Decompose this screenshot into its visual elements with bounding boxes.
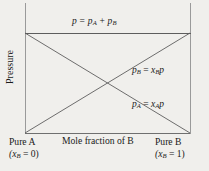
total-plus: +: [97, 16, 108, 26]
pure-b-tail: = 1): [167, 148, 185, 159]
annotation-partial-pressure-b: pB = xBp: [132, 66, 164, 76]
pb-rhs-tail: p: [159, 65, 164, 75]
pb-eq: =: [141, 65, 151, 75]
pure-b-composition: (xB = 1): [155, 148, 185, 162]
y-axis-label: Pressure: [5, 36, 15, 98]
pa-rhs-tail: p: [159, 99, 164, 109]
figure-canvas: p = pA + pB pB = xBp pA = xAp Pressure M…: [0, 0, 209, 171]
pure-a-composition: (xB = 0): [9, 148, 39, 162]
total-eq: =: [77, 16, 88, 26]
pa-eq: =: [141, 99, 151, 109]
x-axis-label: Mole fraction of B: [62, 136, 134, 146]
total-sub2: B: [113, 19, 117, 26]
pure-a-label: Pure A: [9, 136, 39, 148]
annotation-partial-pressure-a: pA = xAp: [132, 100, 164, 110]
annotation-total-pressure: p = pA + pB: [72, 17, 117, 27]
x-axis-right-endpoint-label: Pure B (xB = 1): [155, 136, 185, 161]
pure-b-label: Pure B: [155, 136, 185, 148]
pure-a-tail: = 0): [21, 148, 39, 159]
x-axis-left-endpoint-label: Pure A (xB = 0): [9, 136, 39, 161]
